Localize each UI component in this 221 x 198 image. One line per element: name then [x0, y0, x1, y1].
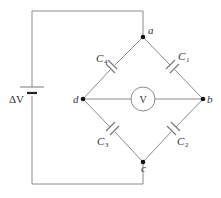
capacitor-c2-plate1 — [171, 122, 180, 131]
svg-text:C: C — [96, 52, 104, 64]
svg-text:1: 1 — [186, 56, 190, 64]
node-label-a: a — [148, 24, 154, 36]
node-a — [141, 35, 146, 40]
node-label-c: c — [141, 162, 146, 174]
node-b — [201, 97, 206, 102]
capacitor-label-c1: C 1 — [178, 50, 190, 64]
capacitor-c1-plate2 — [170, 64, 179, 73]
svg-text:2: 2 — [185, 141, 189, 149]
svg-text:4: 4 — [104, 58, 108, 66]
svg-text:C: C — [177, 135, 185, 147]
capacitor-label-c4: C 4 — [96, 52, 108, 66]
svg-text:C: C — [178, 50, 186, 62]
top-wire — [32, 11, 143, 87]
outer-wires — [32, 11, 143, 184]
node-d — [81, 97, 86, 102]
svg-text:C: C — [97, 135, 105, 147]
capacitor-label-c2: C 2 — [177, 135, 189, 149]
branch-a-d — [83, 37, 143, 99]
capacitor-label-c3: C 3 — [97, 135, 109, 149]
node-label-b: b — [207, 93, 213, 105]
capacitor-c2-plate2 — [167, 126, 176, 135]
bottom-wire — [32, 96, 143, 184]
branch-d-c — [83, 99, 143, 162]
svg-text:3: 3 — [105, 141, 109, 149]
branch-a-b — [143, 37, 203, 99]
source-label: ΔV — [9, 93, 24, 105]
voltmeter-label: V — [139, 94, 147, 105]
capacitor-c3-plate2 — [110, 126, 119, 135]
circuit-diagram: ΔV V a b c d C — [0, 0, 221, 198]
node-label-d: d — [73, 93, 79, 105]
branch-b-c — [143, 99, 203, 162]
capacitor-c3-plate1 — [106, 122, 115, 131]
capacitor-c1-plate1 — [166, 60, 175, 69]
